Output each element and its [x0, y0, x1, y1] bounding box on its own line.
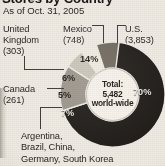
callout-label-united-kingdom: United Kingdom (303): [3, 24, 39, 58]
leader-line-us-horizontal: [117, 25, 126, 26]
slice-label-united-kingdom: 6%: [62, 73, 75, 83]
slice-label-mexico: 14%: [80, 54, 98, 64]
leader-line-us-vertical: [117, 25, 118, 43]
slice-label-canada: 5%: [58, 90, 71, 100]
leader-line-other-horizontal: [40, 107, 62, 108]
slice-label-other: 7%: [61, 108, 74, 118]
chart-subtitle: As of Oct. 31, 2005: [3, 5, 84, 16]
scan-edge-artifact: [0, 88, 7, 158]
chart-figure: Stores by Country As of Oct. 31, 2005 Un…: [0, 0, 165, 166]
donut-center-total: Total: 5,482 world-wide: [86, 68, 139, 121]
center-total-scope: world-wide: [92, 99, 134, 109]
leader-line-uk-horizontal: [24, 69, 64, 70]
leader-line-uk-vertical: [24, 56, 25, 70]
slice-label-us: 70%: [133, 87, 151, 97]
leader-line-mexico-vertical: [103, 25, 104, 43]
callout-label-canada: Canada (261): [3, 84, 35, 106]
leader-line-canada-horizontal: [47, 88, 64, 89]
donut-chart: Total: 5,482 world-wide 70% 14% 6% 5% 7%: [60, 42, 165, 147]
leader-line-other-vertical: [40, 107, 41, 129]
